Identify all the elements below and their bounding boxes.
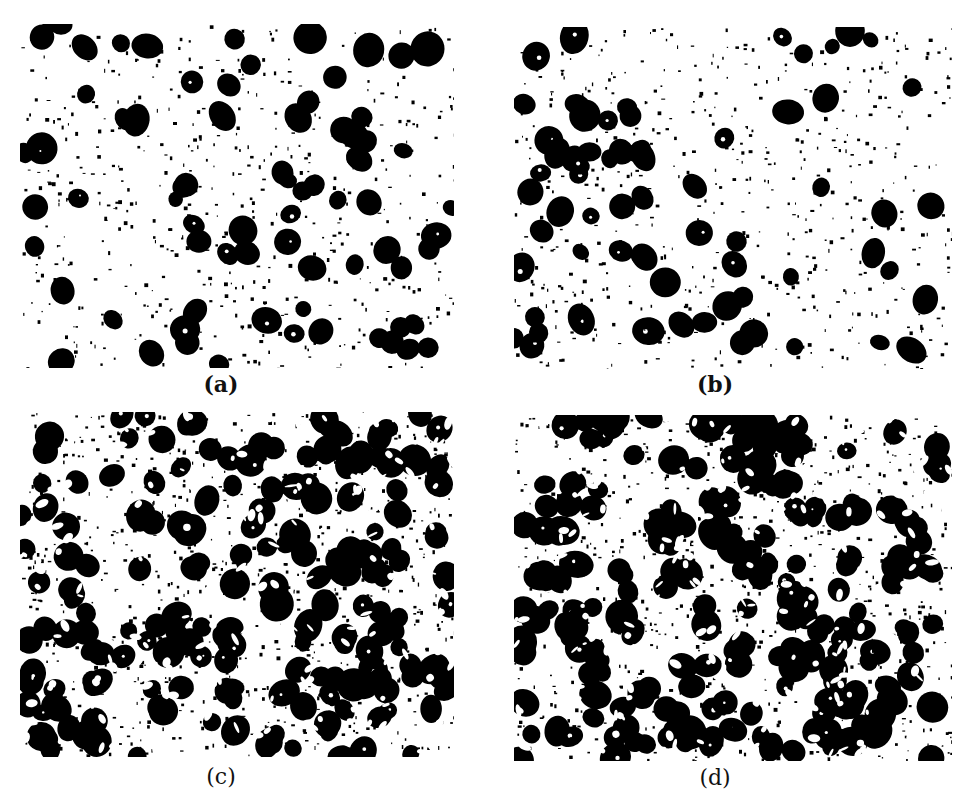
panel-b-binary-cell-image bbox=[514, 27, 952, 369]
panel-b-caption-label: (b) bbox=[685, 372, 745, 396]
panel-d-caption-label: (d) bbox=[685, 766, 745, 790]
panel-a-binary-cell-image bbox=[20, 24, 454, 368]
panel-a-caption-label: (a) bbox=[191, 372, 251, 396]
panel-d-binary-cell-image bbox=[514, 415, 952, 761]
panel-c-binary-cell-image bbox=[20, 412, 454, 757]
panel-c-caption-label: (c) bbox=[191, 765, 251, 789]
cut-off-text-line bbox=[0, 0, 968, 6]
